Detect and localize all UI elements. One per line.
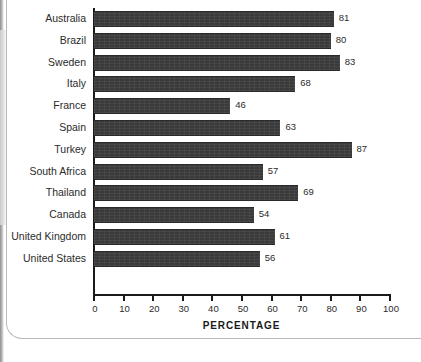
- x-tick: [152, 294, 154, 301]
- bar: [94, 185, 298, 201]
- bar-row: Australia81: [93, 8, 389, 30]
- bar-row: Brazil80: [93, 30, 389, 52]
- bar: [94, 120, 280, 136]
- bar-row: United States56: [93, 248, 389, 270]
- bar-value-label: 69: [303, 185, 314, 199]
- bar: [94, 76, 295, 92]
- bar-value-label: 80: [336, 33, 347, 47]
- x-tick: [182, 294, 184, 301]
- bar-value-label: 54: [259, 207, 270, 221]
- category-label: Thailand: [0, 182, 86, 204]
- category-label: United Kingdom: [0, 226, 86, 248]
- x-tick: [389, 294, 391, 301]
- bar: [94, 55, 340, 71]
- category-label: United States: [0, 248, 86, 270]
- bar-value-label: 56: [265, 251, 276, 265]
- x-tick: [330, 294, 332, 301]
- bar: [94, 229, 275, 245]
- bar-value-label: 61: [280, 229, 291, 243]
- bar-row: France46: [93, 95, 389, 117]
- category-label: Sweden: [0, 52, 86, 74]
- bar-row: Canada54: [93, 204, 389, 226]
- bar-row: Thailand69: [93, 182, 389, 204]
- x-tick: [359, 294, 361, 301]
- category-label: Turkey: [0, 139, 86, 161]
- bar-row: South Africa57: [93, 161, 389, 183]
- bar-value-label: 87: [357, 142, 368, 156]
- bar: [94, 251, 260, 267]
- category-label: Canada: [0, 204, 86, 226]
- bar: [94, 207, 254, 223]
- x-tick-label: 100: [371, 303, 411, 314]
- bar-value-label: 68: [300, 76, 311, 90]
- category-label: Australia: [0, 8, 86, 30]
- bar-row: Spain63: [93, 117, 389, 139]
- category-label: Spain: [0, 117, 86, 139]
- x-tick: [271, 294, 273, 301]
- bar-row: Sweden83: [93, 52, 389, 74]
- category-label: South Africa: [0, 161, 86, 183]
- bar: [94, 33, 331, 49]
- bar-row: United Kingdom61: [93, 226, 389, 248]
- bar: [94, 142, 352, 158]
- x-tick: [123, 294, 125, 301]
- bar-value-label: 57: [268, 164, 279, 178]
- x-tick: [93, 294, 95, 301]
- category-label: Brazil: [0, 30, 86, 52]
- bar-value-label: 63: [285, 120, 296, 134]
- bar: [94, 98, 230, 114]
- x-tick: [241, 294, 243, 301]
- bar-value-label: 81: [339, 11, 350, 25]
- category-label: France: [0, 95, 86, 117]
- plot-area: Australia81Brazil80Sweden83Italy68France…: [93, 8, 389, 293]
- bar: [94, 11, 334, 27]
- bar-row: Italy68: [93, 73, 389, 95]
- x-tick: [211, 294, 213, 301]
- category-label: Italy: [0, 73, 86, 95]
- x-axis-title: PERCENTAGE: [93, 320, 390, 331]
- bar-row: Turkey87: [93, 139, 389, 161]
- bar-value-label: 46: [235, 98, 246, 112]
- x-tick: [300, 294, 302, 301]
- bar-value-label: 83: [345, 55, 356, 69]
- bar: [94, 164, 263, 180]
